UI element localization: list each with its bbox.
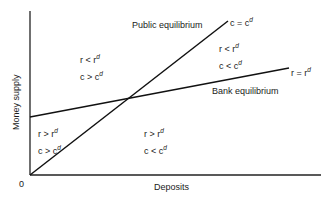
y-axis-label: Money supply <box>11 74 21 130</box>
bank-end-label: r = rd <box>291 64 311 79</box>
public-end-label: c = cd <box>230 14 253 29</box>
region-upper-right: r < rd c < cd <box>219 39 242 73</box>
x-axis-label: Deposits <box>154 182 189 193</box>
bank-equilibrium-label: Bank equilibrium <box>212 86 279 97</box>
region-lower-left: r > rd c > cd <box>38 124 61 158</box>
public-equilibrium-label: Public equilibrium <box>132 20 203 31</box>
region-upper-left: r < rd c > cd <box>80 50 103 84</box>
region-lower-right: r > rd c < cd <box>144 124 167 158</box>
origin-label: 0 <box>19 179 24 190</box>
